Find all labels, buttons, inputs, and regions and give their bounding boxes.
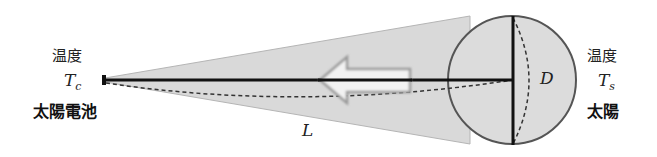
solar-cell-temperature-label: 温度	[52, 44, 82, 65]
symbol-subscript: c	[75, 80, 81, 93]
diameter-label: D	[540, 68, 554, 88]
symbol-T: T	[64, 70, 75, 90]
solar-cell-marker	[102, 75, 106, 85]
diagram-canvas	[0, 0, 657, 157]
symbol-T: T	[598, 70, 609, 90]
sun-temperature-symbol: Ts	[598, 70, 615, 93]
sun-label: 太陽	[587, 98, 619, 122]
distance-label: L	[302, 120, 313, 140]
solar-cell-label: 太陽電池	[33, 98, 97, 122]
sun-temperature-label: 温度	[587, 44, 617, 65]
symbol-subscript: s	[609, 80, 615, 93]
solar-cell-temperature-symbol: Tc	[64, 70, 82, 93]
